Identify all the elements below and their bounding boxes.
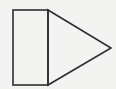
diagram-canvas bbox=[0, 0, 116, 89]
triangle-shape bbox=[48, 10, 111, 85]
rectangle-shape bbox=[13, 10, 48, 85]
